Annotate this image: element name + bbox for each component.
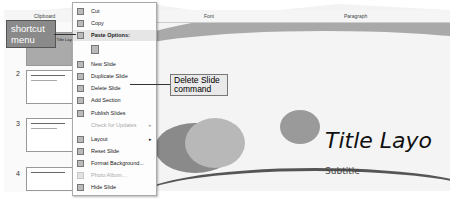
menu-item-publish-slides[interactable]: Publish Slides (73, 108, 156, 119)
menu-item-paste-keep[interactable] (73, 43, 156, 54)
menu-item-check-for-updates[interactable]: Check for Updates▸ (73, 120, 156, 131)
ribbon-group-paragraph: Paragraph (344, 13, 367, 19)
menu-item-layout[interactable]: Layout▸ (73, 134, 156, 145)
slide-title[interactable]: Title Layo (325, 128, 432, 153)
slide-number: 3 (16, 120, 20, 127)
menu-item-hide-slide[interactable]: Hide Slide (73, 182, 156, 193)
duplicate-slide-icon (77, 73, 84, 80)
add-section-icon (77, 97, 84, 104)
menu-item-copy[interactable]: Copy (73, 18, 156, 29)
callout-shortcut-menu: shortcut menu (6, 20, 56, 48)
slide-subtitle[interactable]: Subtitle (325, 166, 360, 176)
layout-icon (77, 136, 84, 143)
menu-item-add-section[interactable]: Add Section (73, 95, 156, 106)
menu-item-duplicate-slide[interactable]: Duplicate Slide (73, 71, 156, 82)
submenu-arrow-icon: ▸ (149, 136, 152, 142)
tree-graphic (185, 118, 245, 168)
callout-delete-slide: Delete Slide command (170, 74, 228, 96)
format-background-icon (77, 160, 84, 167)
menu-item-photo-album[interactable]: Photo Album... (73, 170, 156, 181)
delete-slide-icon (77, 85, 84, 92)
publish-icon (77, 110, 84, 117)
callout-leader-line (54, 34, 76, 35)
scissors-icon (77, 8, 84, 15)
menu-item-format-background[interactable]: Format Background... (73, 158, 156, 169)
menu-item-cut[interactable]: Cut (73, 6, 156, 17)
menu-item-new-slide[interactable]: New Slide (73, 59, 156, 70)
menu-item-paste-options[interactable]: Paste Options: (73, 30, 156, 41)
new-slide-icon (77, 61, 84, 68)
slide-number: 4 (16, 170, 20, 177)
copy-icon (77, 20, 84, 27)
tree-graphic (280, 110, 320, 144)
paste-keep-icon (91, 45, 99, 54)
callout-leader-line (130, 84, 170, 85)
menu-item-reset-slide[interactable]: Reset Slide (73, 146, 156, 157)
paste-icon (77, 32, 84, 39)
reset-icon (77, 148, 84, 155)
slide-canvas[interactable]: Title Layo Subtitle (155, 23, 450, 191)
slide-number: 2 (16, 70, 20, 77)
shortcut-menu[interactable]: Cut Copy Paste Options: New Slide Duplic… (72, 2, 157, 196)
ribbon-group-clipboard: Clipboard (34, 13, 55, 19)
submenu-arrow-icon: ▸ (149, 122, 152, 128)
photo-album-icon (77, 172, 84, 179)
ribbon-group-font: Font (204, 13, 214, 19)
hide-slide-icon (77, 184, 84, 191)
